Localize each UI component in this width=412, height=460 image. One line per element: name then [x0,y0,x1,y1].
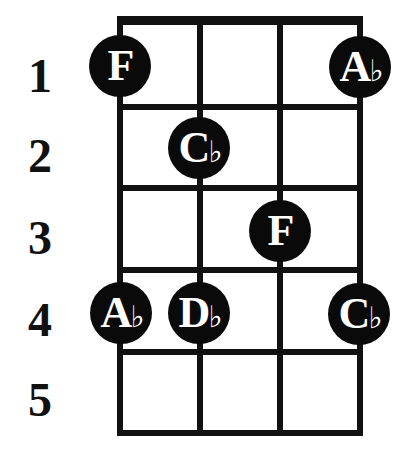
fret-label-4: 4 [10,296,70,344]
fret-line-3 [117,267,363,273]
string-2 [197,20,203,435]
note-name: F [108,44,132,88]
fret-label-3: 3 [10,214,70,262]
note-dot: F [249,200,311,262]
fret-line-5 [117,430,363,436]
note-name: D [179,291,208,335]
note-name: F [268,209,292,253]
fret-line-1 [117,104,363,110]
note-dot: A♭ [90,282,152,344]
fret-label-5: 5 [10,376,70,424]
accidental: ♭ [130,302,141,332]
accidental: ♭ [208,137,219,167]
fret-label-1: 1 [10,52,70,100]
note-name: C [339,292,368,336]
fret-label-2: 2 [10,132,70,180]
note-dot: C♭ [168,117,230,179]
nut [117,16,363,25]
note-name: A [101,291,130,335]
accidental: ♭ [208,302,219,332]
note-dot: A♭ [329,36,391,98]
note-dot: C♭ [328,283,390,345]
chord-diagram: 1 2 3 4 5 F A♭ C♭ F A♭ D♭ C♭ [0,0,412,460]
fret-line-2 [117,185,363,191]
note-dot: F [89,35,151,97]
note-dot: D♭ [168,282,230,344]
accidental: ♭ [369,56,380,86]
fret-line-4 [117,349,363,355]
accidental: ♭ [368,303,379,333]
note-name: A [340,45,369,89]
note-name: C [179,126,208,170]
